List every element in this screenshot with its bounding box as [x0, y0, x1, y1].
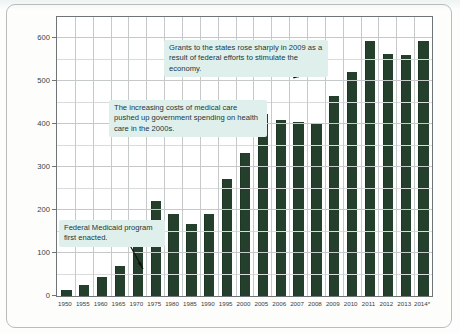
x-tick-label: 2000 — [237, 300, 251, 307]
x-tick-label: 1975 — [147, 300, 161, 307]
x-tick-label: 2014* — [414, 300, 430, 307]
y-tick-mark — [52, 209, 56, 210]
y-tick-label: 300 — [2, 162, 50, 171]
x-tick-label: 1955 — [76, 300, 90, 307]
x-tick-label: 2011 — [362, 300, 375, 307]
x-tick-label: 1995 — [219, 300, 233, 307]
y-tick-mark — [52, 166, 56, 167]
y-tick-label: 600 — [2, 33, 50, 42]
y-tick-label: 400 — [2, 119, 50, 128]
annotation-grants-2009: Grants to the states rose sharply in 200… — [164, 40, 328, 77]
y-tick-mark — [52, 37, 56, 38]
x-tick-label: 1990 — [201, 300, 215, 307]
x-tick-label: 2013 — [397, 300, 411, 307]
x-tick-label: 1970 — [129, 300, 143, 307]
chart-page: BILLIONS OF CONSTANT (FY 2005) DOLLARS 0… — [0, 0, 460, 333]
x-tick-label: 2005 — [254, 300, 268, 307]
annotation-medicaid-enacted: Federal Medicaid program first enacted. — [59, 220, 165, 247]
x-tick-label: 2006 — [272, 300, 286, 307]
x-tick-label: 2010 — [344, 300, 358, 307]
x-tick-label: 1985 — [183, 300, 197, 307]
x-tick-label: 2009 — [326, 300, 340, 307]
y-tick-mark — [52, 252, 56, 253]
x-tick-label: 1960 — [94, 300, 108, 307]
x-tick-label: 2007 — [290, 300, 304, 307]
x-tick-label: 1965 — [112, 300, 126, 307]
x-tick-label: 2008 — [308, 300, 322, 307]
y-tick-mark — [52, 80, 56, 81]
annotation-medical-costs: The increasing costs of medical care pus… — [109, 100, 267, 137]
y-tick-label: 500 — [2, 76, 50, 85]
x-tick-label: 1950 — [58, 300, 72, 307]
y-tick-label: 100 — [2, 248, 50, 257]
x-tick-label: 1980 — [165, 300, 179, 307]
y-tick-mark — [52, 123, 56, 124]
y-tick-mark — [52, 295, 56, 296]
x-tick-label: 2012 — [379, 300, 393, 307]
y-tick-label: 200 — [2, 205, 50, 214]
y-tick-label: 0 — [2, 291, 50, 300]
